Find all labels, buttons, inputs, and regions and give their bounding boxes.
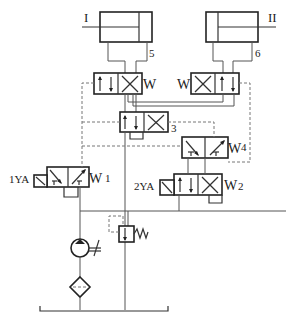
pump [71, 239, 101, 257]
filter [70, 277, 90, 297]
spring-icon: W [143, 77, 157, 92]
solenoid-2ya-label: 2YA [134, 180, 154, 192]
valve-3: 3 [120, 112, 177, 139]
valve-1: W 1 1YA [9, 167, 111, 197]
valve-6: W [177, 73, 239, 94]
cylinder-2-label: II [268, 10, 277, 25]
cylinder-1-label: I [84, 10, 88, 25]
spring-icon: W [228, 141, 242, 156]
valve-2: W 2 2YA [134, 174, 244, 203]
valve-1-label: 1 [105, 172, 111, 184]
cylinder-2: II [206, 10, 277, 42]
valve-4: W 4 [182, 137, 247, 158]
tank [40, 306, 168, 311]
cylinder-1: I [82, 10, 152, 42]
hydraulic-schematic: I II 5 6 W W [0, 0, 292, 319]
spring-icon: W [224, 178, 238, 193]
spring-icon: W [177, 77, 191, 92]
valve-2-label: 2 [238, 180, 244, 192]
spring-icon: W [89, 171, 103, 186]
solenoid-1ya-label: 1YA [9, 173, 29, 185]
valve-3-label: 3 [171, 122, 177, 134]
valve-5-label: 5 [149, 47, 155, 59]
valve-4-label: 4 [241, 141, 247, 153]
valve-6-label: 6 [255, 47, 261, 59]
valve-5: W [94, 73, 157, 94]
